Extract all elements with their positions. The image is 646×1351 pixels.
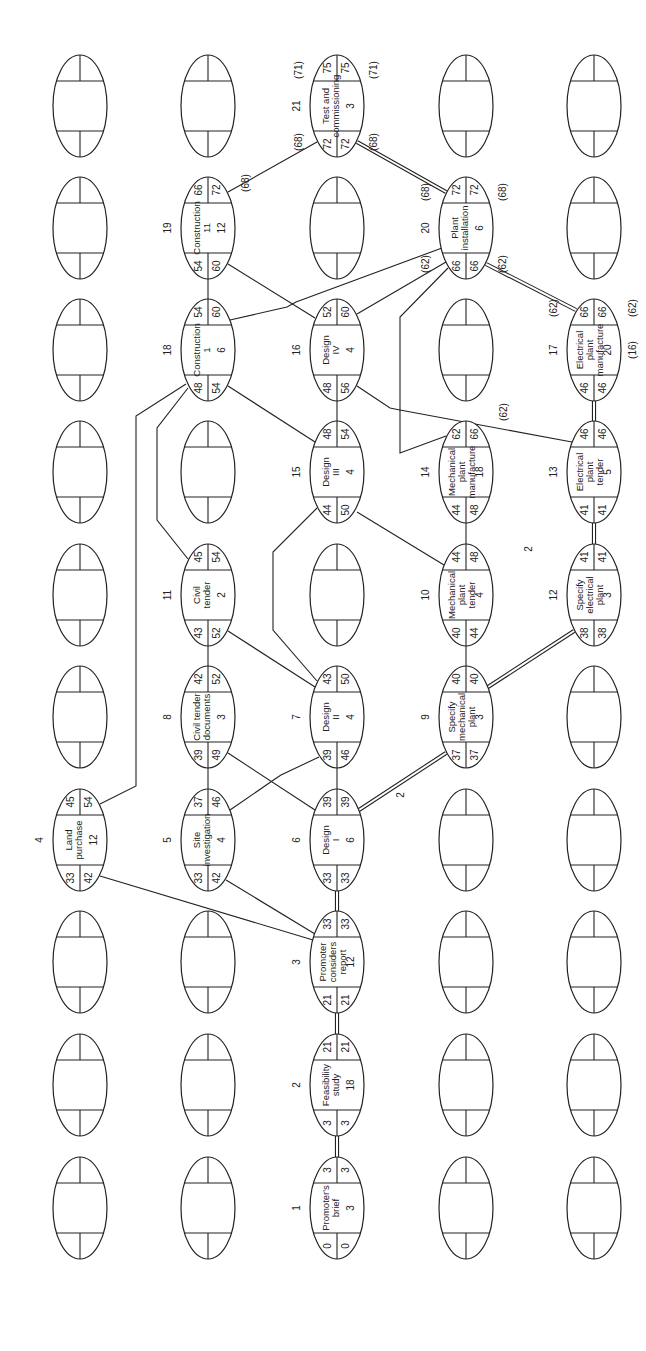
early-start: 0 [322, 1243, 333, 1249]
empty-node-placeholder [53, 911, 107, 1013]
late-start: 46 [340, 749, 351, 761]
activity-number: 4 [34, 837, 45, 843]
early-start: 66 [451, 260, 462, 272]
late-start: 37 [469, 749, 480, 761]
activity-number: 6 [291, 837, 302, 843]
empty-node-placeholder [567, 1157, 621, 1259]
activity-duration: 5 [602, 469, 613, 475]
early-start: 37 [451, 749, 462, 761]
activity-number: 17 [548, 344, 559, 356]
late-start: 42 [211, 872, 222, 884]
activity-duration: 3 [345, 1205, 356, 1211]
activity-node-9: 9Specifymechanicalplant337374040 [420, 666, 493, 768]
late-start: 66 [469, 260, 480, 272]
late-start: 52 [211, 627, 222, 639]
activity-duration: 3 [602, 592, 613, 598]
activity-node-10: 10Mechanicalplanttender440444448 [420, 544, 493, 646]
activity-number: 13 [548, 466, 559, 478]
edge-16-20 [357, 262, 446, 314]
activity-number: 18 [162, 344, 173, 356]
early-start: 3 [322, 1120, 333, 1126]
late-finish: 54 [83, 796, 94, 808]
empty-node-placeholder [181, 1157, 235, 1259]
empty-node-placeholder [181, 1034, 235, 1136]
early-finish: 62 [451, 428, 462, 440]
activity-name: installation [459, 206, 470, 251]
activity-node-11: 11Civiltender243524554 [162, 544, 235, 646]
late-finish: 3 [340, 1167, 351, 1173]
late-finish: 60 [340, 306, 351, 318]
early-finish: 42 [193, 673, 204, 685]
float-annotation: (16) [627, 341, 638, 359]
late-start: 41 [597, 504, 608, 516]
empty-node-placeholder [567, 911, 621, 1013]
late-finish: 46 [597, 428, 608, 440]
activity-duration: 6 [216, 347, 227, 353]
activity-duration: 4 [345, 714, 356, 720]
empty-node-placeholder [53, 1157, 107, 1259]
activity-name: documents [201, 694, 212, 741]
activity-duration: 4 [474, 592, 485, 598]
empty-node-placeholder [181, 55, 235, 157]
late-finish: 33 [340, 918, 351, 930]
late-finish: 66 [469, 428, 480, 440]
late-start: 42 [83, 872, 94, 884]
empty-node-placeholder [53, 421, 107, 523]
edge-3-5 [226, 880, 315, 934]
early-finish: 45 [65, 796, 76, 808]
activity-name: commissioning [330, 75, 341, 138]
early-finish: 75 [322, 62, 333, 74]
float-annotation: (62) [548, 299, 559, 317]
activity-number: 11 [162, 589, 173, 600]
activity-duration: 12 [88, 834, 99, 846]
activity-number: 20 [420, 222, 431, 234]
early-finish: 41 [579, 551, 590, 563]
late-finish: 54 [211, 551, 222, 563]
activity-node-12: 12Specifyelectricalplant338384141 [548, 544, 621, 646]
early-start: 48 [193, 382, 204, 394]
early-finish: 43 [322, 673, 333, 685]
late-start: 21 [340, 994, 351, 1006]
empty-node-placeholder [53, 1034, 107, 1136]
empty-node-placeholder [567, 789, 621, 891]
float-annotation: (62) [420, 255, 431, 273]
activity-node-14: 14Mechanicalplantmanufacture1844486266 [420, 421, 493, 523]
float-annotation: (68) [368, 133, 379, 151]
activity-name: III [330, 468, 341, 476]
early-finish: 21 [322, 1041, 333, 1053]
early-finish: 72 [451, 184, 462, 196]
float-annotation: (68) [293, 133, 304, 151]
float-annotation: (71) [293, 61, 304, 79]
empty-node-placeholder [53, 299, 107, 401]
edge-6-9-critical [359, 753, 446, 810]
float-annotation: (71) [368, 61, 379, 79]
early-finish: 66 [193, 184, 204, 196]
activity-number: 14 [420, 466, 431, 478]
late-start: 33 [340, 872, 351, 884]
activity-number: 16 [291, 344, 302, 356]
activity-name: 1 [201, 347, 212, 352]
activity-node-16: 16DesignIV448565260 [291, 299, 364, 401]
activity-node-4: 4Landpurchase1233424554 [34, 789, 107, 891]
activity-name: tender [201, 582, 212, 609]
empty-node-placeholder [439, 911, 493, 1013]
activity-number: 12 [548, 589, 559, 601]
activity-name: investigation [201, 814, 212, 867]
early-finish: 66 [579, 306, 590, 318]
activity-name: study [330, 1073, 341, 1096]
activity-number: 3 [291, 959, 302, 965]
float-annotation: (62) [627, 299, 638, 317]
late-start: 46 [597, 382, 608, 394]
early-finish: 44 [451, 551, 462, 563]
activity-duration: 3 [216, 714, 227, 720]
activity-duration: 6 [474, 225, 485, 231]
activity-duration: 20 [602, 344, 613, 356]
early-start: 44 [451, 504, 462, 516]
late-start: 54 [211, 382, 222, 394]
early-start: 48 [322, 382, 333, 394]
empty-node-placeholder [181, 911, 235, 1013]
early-start: 54 [193, 260, 204, 272]
activity-duration: 3 [345, 103, 356, 109]
activity-name: II [330, 714, 341, 719]
early-start: 41 [579, 504, 590, 516]
